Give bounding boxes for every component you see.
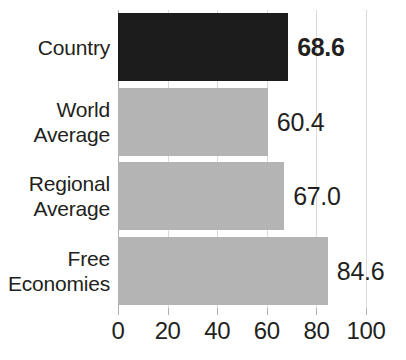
x-tick-label-100: 100	[347, 316, 386, 346]
bar-row[interactable]: 68.6	[118, 13, 406, 81]
category-label-line: Average	[0, 122, 110, 147]
category-label-line: Economies	[0, 271, 110, 296]
bar-row[interactable]: 60.4	[118, 88, 406, 156]
x-tick-label-20: 20	[155, 316, 181, 346]
x-tick-label-0: 0	[112, 316, 125, 346]
x-tick-label-80: 80	[303, 316, 329, 346]
bar-value-label: 60.4	[277, 109, 324, 134]
bar-value-label: 67.0	[293, 184, 340, 209]
bar-row[interactable]: 67.0	[118, 162, 406, 230]
tick-mark-80	[316, 308, 317, 315]
category-label: WorldAverage	[0, 97, 110, 147]
tick-mark-100	[366, 308, 367, 315]
bar-chart: CountryWorldAverageRegionalAverageFreeEc…	[0, 0, 406, 360]
x-axis-tick-labels: 020406080100	[0, 316, 406, 350]
bars-layer: 68.660.467.084.6	[118, 10, 406, 308]
category-label: FreeEconomies	[0, 246, 110, 296]
category-label-line: Average	[0, 196, 110, 221]
bar-value-label: 68.6	[297, 35, 344, 60]
bar[interactable]	[118, 13, 288, 81]
bar-row[interactable]: 84.6	[118, 237, 406, 305]
category-label: Country	[0, 35, 110, 60]
category-label-line: Free	[0, 246, 110, 271]
category-label-line: World	[0, 97, 110, 122]
x-tick-label-40: 40	[204, 316, 230, 346]
tick-mark-0	[118, 308, 119, 315]
category-label-line: Regional	[0, 171, 110, 196]
bar[interactable]	[118, 162, 284, 230]
x-tick-label-60: 60	[254, 316, 280, 346]
bar[interactable]	[118, 237, 328, 305]
tick-mark-60	[267, 308, 268, 315]
bar-value-label: 84.6	[337, 258, 384, 283]
bar[interactable]	[118, 88, 268, 156]
category-label-line: Country	[0, 35, 110, 60]
category-axis-labels: CountryWorldAverageRegionalAverageFreeEc…	[0, 10, 110, 308]
tick-mark-40	[217, 308, 218, 315]
category-label: RegionalAverage	[0, 171, 110, 221]
tick-mark-20	[168, 308, 169, 315]
